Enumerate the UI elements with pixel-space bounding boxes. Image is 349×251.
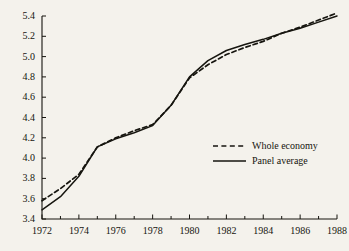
legend-item-whole-economy: Whole economy (213, 138, 343, 153)
legend-label-whole-economy: Whole economy (252, 140, 318, 151)
legend-label-panel-average: Panel average (252, 155, 308, 166)
y-axis-tick-label: 3.4 (0, 214, 35, 224)
y-axis-tick-label: 5.0 (0, 52, 35, 62)
y-axis-tick-label: 5.4 (0, 11, 35, 21)
y-axis-tick-label: 5.2 (0, 31, 35, 41)
plot-canvas (0, 0, 349, 251)
y-axis-tick-label: 3.6 (0, 194, 35, 204)
dashed-line-swatch-icon (213, 141, 246, 151)
series-line-panel-average (42, 16, 337, 210)
chart-legend: Whole economy Panel average (213, 138, 343, 168)
x-axis-tick-label: 1988 (315, 226, 349, 236)
y-axis-tick-label: 4.4 (0, 113, 35, 123)
y-axis-tick-label: 4.8 (0, 72, 35, 82)
y-axis-tick-label: 3.8 (0, 173, 35, 183)
y-axis-tick-label: 4.6 (0, 92, 35, 102)
axis-spines (42, 16, 337, 219)
legend-item-panel-average: Panel average (213, 153, 343, 168)
y-axis-tick-label: 4.0 (0, 153, 35, 163)
y-axis-tick-label: 4.2 (0, 133, 35, 143)
series-line-whole-economy (42, 13, 337, 201)
line-chart: 3.43.63.84.04.24.44.64.85.05.25.4 197219… (0, 0, 349, 251)
solid-line-swatch-icon (213, 156, 246, 166)
